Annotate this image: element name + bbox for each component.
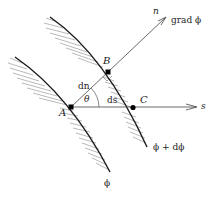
label-theta: θ <box>84 95 89 104</box>
label-s: s <box>201 102 206 111</box>
hatch-upper-surface <box>44 18 146 143</box>
point-C <box>130 105 135 110</box>
label-C: C <box>140 95 148 105</box>
label-dn: dn <box>78 82 90 91</box>
label-phi: ϕ <box>104 179 110 188</box>
label-B: B <box>103 56 110 66</box>
label-n: n <box>153 7 159 16</box>
curve-phi-plus-dphi <box>50 17 147 147</box>
label-phi-plus-dphi: ϕ + dϕ <box>153 143 184 152</box>
label-ds: ds <box>107 96 117 105</box>
point-A <box>69 105 74 110</box>
label-A: A <box>59 108 66 118</box>
label-grad-phi: grad ϕ <box>171 16 201 25</box>
theta-arc <box>91 88 99 107</box>
point-B <box>106 70 111 75</box>
